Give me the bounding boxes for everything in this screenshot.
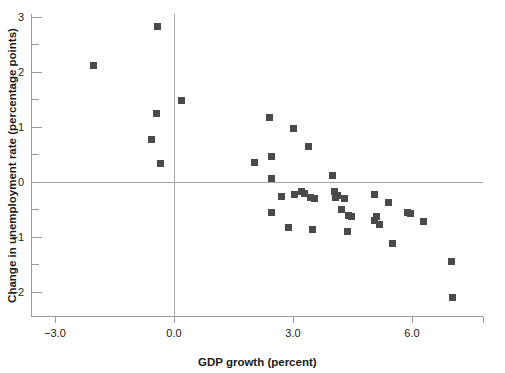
- x-tick-label: 3.0: [285, 327, 300, 339]
- data-point-marker: [305, 143, 312, 150]
- data-point-marker: [268, 153, 275, 160]
- data-point-marker: [376, 221, 383, 228]
- y-axis-title: Change in unemployment rate (percentage …: [6, 28, 18, 303]
- x-tick-label: 0.0: [166, 327, 181, 339]
- data-point-marker: [420, 218, 427, 225]
- data-point-marker: [348, 213, 355, 220]
- y-tick-label: 3: [18, 11, 24, 23]
- data-point-marker: [371, 191, 378, 198]
- y-tick-label: 1: [18, 121, 24, 133]
- data-point-marker: [268, 175, 275, 182]
- data-point-marker: [178, 97, 185, 104]
- data-point-marker: [449, 294, 456, 301]
- data-point-marker: [311, 195, 318, 202]
- x-tick-label: −3.0: [44, 327, 66, 339]
- x-tick-label: 6.0: [404, 327, 419, 339]
- y-tick-label: 0: [18, 176, 24, 188]
- y-tick-label: 2: [18, 66, 24, 78]
- x-axis-title: GDP growth (percent): [198, 356, 317, 368]
- data-point-marker: [90, 62, 97, 69]
- data-point-marker: [344, 228, 351, 235]
- data-point-marker: [251, 159, 258, 166]
- scatter-plot-figure: −3.00.03.06.0−2−10123GDP growth (percent…: [0, 0, 505, 373]
- data-point-marker: [290, 125, 297, 132]
- data-point-marker: [268, 209, 275, 216]
- data-point-marker: [309, 226, 316, 233]
- data-point-marker: [407, 210, 414, 217]
- data-point-marker: [389, 240, 396, 247]
- data-point-marker: [373, 213, 380, 220]
- data-point-marker: [148, 136, 155, 143]
- data-point-marker: [153, 110, 160, 117]
- data-point-marker: [334, 192, 341, 199]
- data-point-marker: [385, 199, 392, 206]
- data-point-marker: [157, 160, 164, 167]
- data-point-marker: [341, 195, 348, 202]
- data-point-marker: [291, 191, 298, 198]
- data-point-marker: [338, 206, 345, 213]
- chart-canvas: −3.00.03.06.0−2−10123GDP growth (percent…: [0, 0, 505, 373]
- data-point-marker: [285, 224, 292, 231]
- data-point-marker: [266, 114, 273, 121]
- data-point-marker: [154, 23, 161, 30]
- data-point-marker: [278, 193, 285, 200]
- data-point-marker: [329, 172, 336, 179]
- data-point-marker: [448, 258, 455, 265]
